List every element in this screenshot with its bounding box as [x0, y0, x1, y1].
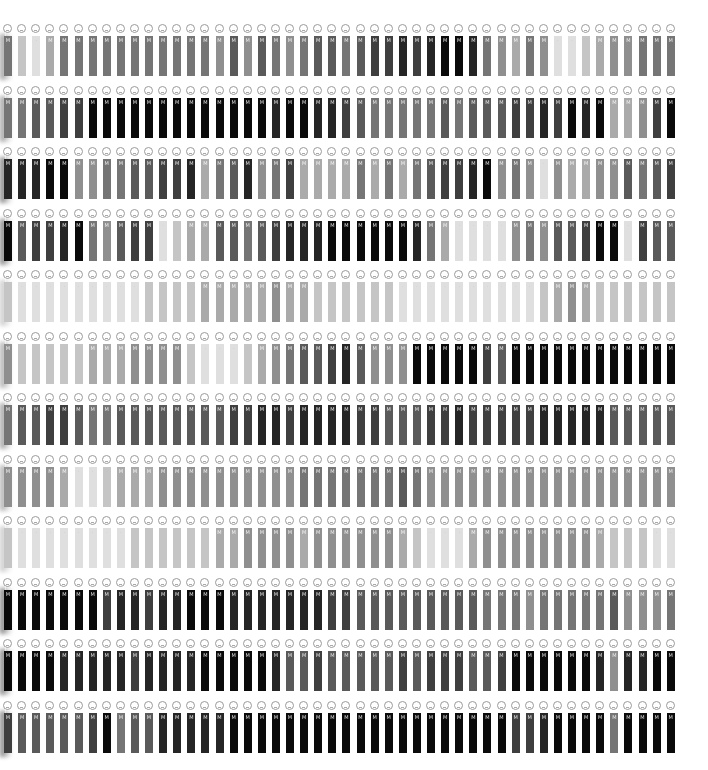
tile[interactable]: M — [608, 330, 620, 390]
tile[interactable]: · — [214, 330, 226, 390]
tile[interactable]: M — [651, 330, 663, 390]
tile[interactable]: M — [651, 22, 663, 82]
tile[interactable]: M — [171, 637, 183, 697]
tile[interactable]: · — [453, 207, 465, 267]
tile[interactable]: M — [58, 84, 70, 144]
tile[interactable]: · — [622, 514, 634, 574]
tile[interactable]: M — [171, 699, 183, 759]
tile[interactable]: M — [608, 391, 620, 451]
tile[interactable]: M — [439, 22, 451, 82]
tile[interactable]: M — [2, 453, 14, 513]
tile[interactable]: M — [129, 453, 141, 513]
tile[interactable]: M — [594, 84, 606, 144]
tile[interactable]: M — [538, 207, 550, 267]
tile[interactable]: · — [439, 514, 451, 574]
tile[interactable]: M — [524, 145, 536, 205]
tile[interactable]: M — [467, 391, 479, 451]
tile[interactable]: M — [355, 84, 367, 144]
tile[interactable]: M — [665, 453, 677, 513]
tile[interactable]: M — [383, 84, 395, 144]
tile[interactable]: M — [397, 699, 409, 759]
tile[interactable]: M — [199, 699, 211, 759]
tile[interactable]: M — [326, 637, 338, 697]
tile[interactable]: M — [58, 576, 70, 636]
tile[interactable]: M — [326, 514, 338, 574]
tile[interactable]: M — [538, 453, 550, 513]
tile[interactable]: M — [157, 453, 169, 513]
tile[interactable]: M — [256, 268, 268, 328]
tile[interactable]: M — [284, 22, 296, 82]
tile[interactable]: · — [16, 268, 28, 328]
tile[interactable]: M — [411, 207, 423, 267]
tile[interactable]: · — [199, 330, 211, 390]
tile[interactable]: M — [622, 453, 634, 513]
tile[interactable]: M — [44, 145, 56, 205]
tile[interactable]: · — [87, 268, 99, 328]
tile[interactable]: M — [425, 637, 437, 697]
tile[interactable]: M — [665, 84, 677, 144]
tile[interactable]: · — [453, 268, 465, 328]
tile[interactable]: M — [425, 84, 437, 144]
tile[interactable]: M — [242, 145, 254, 205]
tile[interactable]: M — [73, 576, 85, 636]
tile[interactable]: · — [2, 268, 14, 328]
tile[interactable]: · — [129, 514, 141, 574]
tile[interactable]: · — [608, 268, 620, 328]
tile[interactable]: M — [496, 84, 508, 144]
tile[interactable]: · — [115, 268, 127, 328]
tile[interactable]: · — [326, 268, 338, 328]
tile[interactable]: M — [538, 576, 550, 636]
tile[interactable]: · — [651, 268, 663, 328]
tile[interactable]: M — [552, 330, 564, 390]
tile[interactable]: M — [481, 145, 493, 205]
tile[interactable]: M — [129, 145, 141, 205]
tile[interactable]: M — [665, 145, 677, 205]
tile[interactable]: · — [538, 145, 550, 205]
tile[interactable]: M — [44, 576, 56, 636]
tile[interactable]: M — [16, 637, 28, 697]
tile[interactable]: M — [284, 637, 296, 697]
tile[interactable]: M — [453, 391, 465, 451]
tile[interactable]: M — [143, 576, 155, 636]
tile[interactable]: M — [326, 699, 338, 759]
tile[interactable]: M — [369, 22, 381, 82]
tile[interactable]: M — [270, 145, 282, 205]
tile[interactable]: M — [340, 145, 352, 205]
tile[interactable]: M — [171, 391, 183, 451]
tile[interactable]: M — [510, 514, 522, 574]
tile[interactable]: M — [411, 330, 423, 390]
tile[interactable]: M — [566, 576, 578, 636]
tile[interactable]: M — [256, 84, 268, 144]
tile[interactable]: M — [312, 145, 324, 205]
tile[interactable]: M — [524, 699, 536, 759]
tile[interactable]: M — [214, 145, 226, 205]
tile[interactable]: M — [524, 637, 536, 697]
tile[interactable]: M — [651, 145, 663, 205]
tile[interactable]: M — [510, 699, 522, 759]
tile[interactable]: M — [214, 699, 226, 759]
tile[interactable]: M — [214, 453, 226, 513]
tile[interactable]: · — [143, 514, 155, 574]
tile[interactable]: M — [298, 268, 310, 328]
tile[interactable]: M — [608, 145, 620, 205]
tile[interactable]: M — [552, 145, 564, 205]
tile[interactable]: M — [355, 145, 367, 205]
tile[interactable]: M — [284, 268, 296, 328]
tile[interactable]: M — [467, 514, 479, 574]
tile[interactable]: M — [171, 84, 183, 144]
tile[interactable]: M — [326, 391, 338, 451]
tile[interactable]: M — [340, 22, 352, 82]
tile[interactable]: M — [340, 207, 352, 267]
tile[interactable]: M — [115, 699, 127, 759]
tile[interactable]: · — [157, 268, 169, 328]
tile[interactable]: M — [115, 330, 127, 390]
tile[interactable]: M — [552, 268, 564, 328]
tile[interactable]: · — [185, 330, 197, 390]
tile[interactable]: M — [87, 637, 99, 697]
tile[interactable]: · — [538, 268, 550, 328]
tile[interactable]: M — [30, 453, 42, 513]
tile[interactable]: M — [524, 207, 536, 267]
tile[interactable]: · — [665, 268, 677, 328]
tile[interactable]: M — [256, 576, 268, 636]
tile[interactable]: M — [157, 22, 169, 82]
